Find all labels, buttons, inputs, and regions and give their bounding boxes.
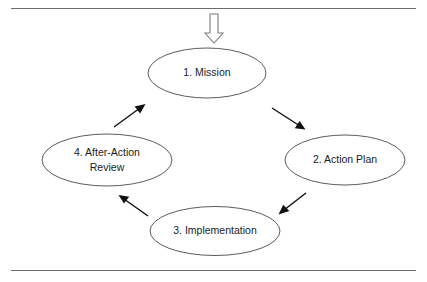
node-action-plan-label: 2. Action Plan — [313, 153, 377, 165]
node-action-plan[interactable]: 2. Action Plan — [285, 135, 405, 185]
process-cycle-figure: 1. Mission 2. Action Plan 3. Implementat… — [0, 0, 427, 282]
connector-mission-to-action-plan — [272, 108, 306, 130]
connector-line — [284, 193, 306, 210]
connector-line — [124, 199, 148, 216]
connector-line — [114, 108, 140, 127]
diagram-canvas: 1. Mission 2. Action Plan 3. Implementat… — [0, 0, 427, 282]
block-arrow-down-icon — [205, 14, 223, 43]
connector-line — [272, 108, 300, 126]
connector-after-action-review-to-mission — [114, 104, 146, 127]
arrow-head-icon — [135, 104, 146, 113]
node-mission[interactable]: 1. Mission — [148, 48, 266, 98]
node-implementation[interactable]: 3. Implementation — [150, 207, 280, 256]
node-after-action-review-label-line1: 4. After-Action — [74, 146, 140, 158]
connector-implementation-to-after-action-review — [119, 195, 149, 216]
node-after-action-review[interactable]: 4. After-Action Review — [42, 134, 172, 186]
arrow-head-icon — [295, 121, 306, 130]
node-implementation-label: 3. Implementation — [173, 224, 257, 236]
node-mission-label: 1. Mission — [183, 66, 230, 78]
node-after-action-review-label-line2: Review — [90, 161, 125, 173]
connector-action-plan-to-implementation — [279, 193, 307, 215]
